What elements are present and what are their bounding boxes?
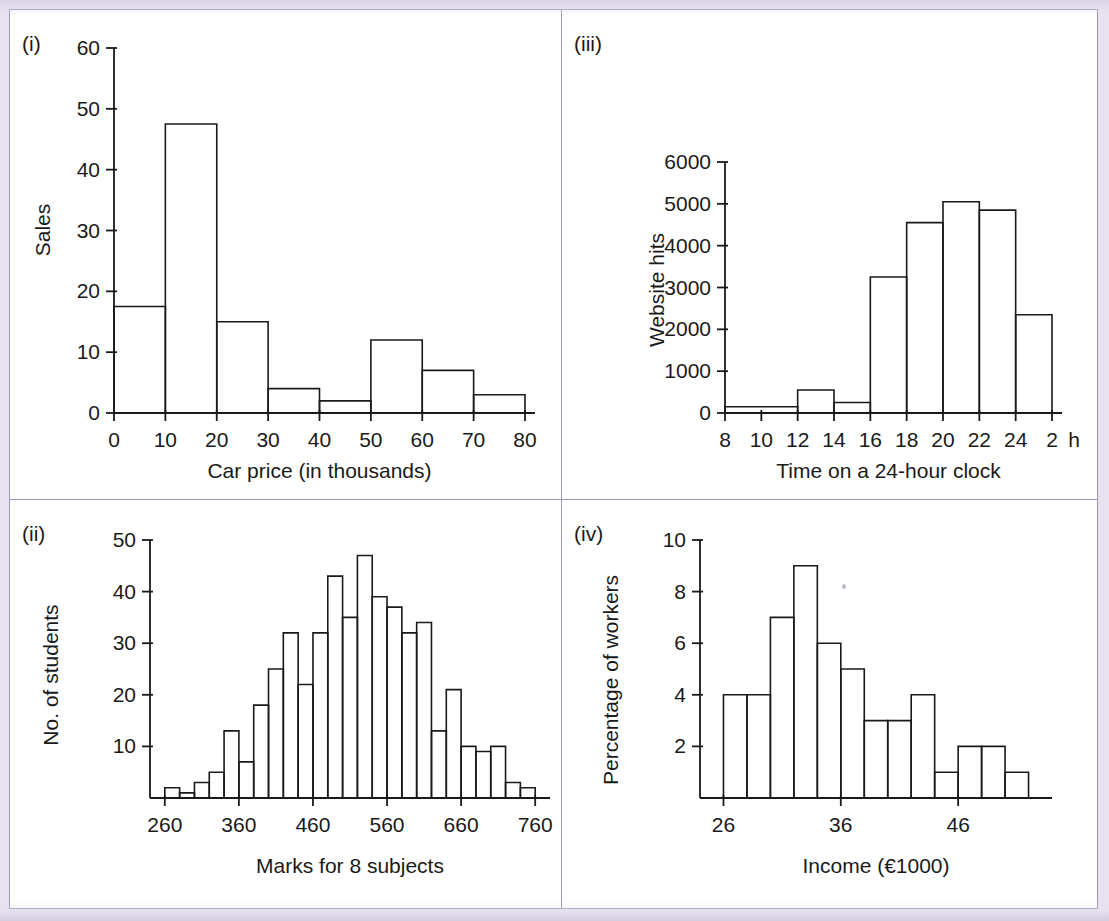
histogram-bar	[357, 555, 372, 798]
histogram-bar	[422, 370, 473, 413]
y-axis-title-ii: No. of students	[39, 604, 62, 745]
histogram-bar	[958, 746, 981, 798]
x-tick-label-iii-6: 20	[931, 428, 954, 451]
histogram-bar	[283, 633, 298, 798]
histogram-bar	[209, 772, 224, 798]
x-tick-label-iii-4: 16	[859, 428, 882, 451]
y-tick-label-i-4: 40	[77, 158, 100, 181]
y-tick-label-iii-0: 0	[699, 401, 711, 424]
histogram-bar	[372, 597, 387, 798]
figure-panel: (i) 010203040506001020304050607080Car pr…	[9, 9, 1098, 909]
histogram-bar	[431, 731, 446, 798]
page-root: (i) 010203040506001020304050607080Car pr…	[0, 0, 1109, 921]
histogram-bar	[935, 772, 958, 798]
y-tick-label-ii-4: 50	[113, 528, 136, 551]
y-tick-label-iii-3: 3000	[664, 276, 711, 299]
histogram-bar	[491, 746, 506, 798]
y-tick-label-i-5: 50	[77, 97, 100, 120]
histogram-bar	[417, 623, 432, 798]
histogram-bar	[387, 607, 402, 798]
x-tick-label-ii-1: 360	[221, 813, 256, 836]
y-tick-label-iv-1: 4	[674, 683, 686, 706]
y-tick-label-i-1: 10	[77, 340, 100, 363]
histogram-bar	[402, 633, 417, 798]
histogram-bar	[239, 762, 254, 798]
histogram-bar	[817, 643, 840, 798]
y-tick-label-iii-2: 2000	[664, 317, 711, 340]
histogram-bar	[979, 210, 1015, 413]
histogram-bar	[298, 684, 313, 798]
y-tick-label-iv-0: 2	[674, 734, 686, 757]
chart-iii: 0100020003000400050006000810121416182022…	[562, 10, 1099, 499]
x-tick-label-i-6: 60	[411, 428, 434, 451]
histogram-bar	[320, 401, 371, 413]
histogram-bar	[194, 783, 209, 798]
y-tick-label-ii-3: 40	[113, 580, 136, 603]
x-tick-label-i-4: 40	[308, 428, 331, 451]
histogram-bar	[982, 746, 1005, 798]
histogram-bar	[446, 690, 461, 798]
histogram-bar	[520, 788, 535, 798]
y-tick-label-iii-1: 1000	[664, 359, 711, 382]
x-axis-title-iii: Time on a 24-hour clock	[776, 459, 1001, 482]
x-axis-title-i: Car price (in thousands)	[207, 459, 431, 482]
histogram-bar	[165, 124, 216, 413]
x-tick-label-iii-2: 12	[786, 428, 809, 451]
x-axis-title-ii: Marks for 8 subjects	[256, 854, 444, 877]
histogram-bar	[747, 695, 770, 798]
histogram-bar	[506, 783, 521, 798]
histogram-bar	[888, 721, 911, 798]
histogram-bar	[269, 669, 284, 798]
y-tick-label-i-6: 60	[77, 36, 100, 59]
chart-i: 010203040506001020304050607080Car price …	[10, 10, 561, 499]
histogram-bar	[461, 746, 476, 798]
chart-ii: 1020304050260360460560660760Marks for 8 …	[10, 500, 561, 910]
histogram-bar	[798, 390, 834, 413]
histogram-bar	[864, 721, 887, 798]
histogram-bar	[870, 277, 906, 413]
histogram-bar	[1016, 315, 1052, 413]
histogram-bar	[834, 403, 870, 413]
x-tick-label-iii-1: 10	[750, 428, 773, 451]
x-tick-label-iii-5: 18	[895, 428, 918, 451]
chart-panel-i: (i) 010203040506001020304050607080Car pr…	[10, 10, 561, 499]
y-tick-label-iv-3: 8	[674, 580, 686, 603]
x-tick-label-i-0: 0	[108, 428, 120, 451]
histogram-bar	[943, 202, 979, 413]
y-tick-label-i-3: 30	[77, 219, 100, 242]
x-tick-label-iii-9: 2	[1046, 428, 1058, 451]
histogram-bar	[911, 695, 934, 798]
x-tick-label-ii-3: 560	[370, 813, 405, 836]
paper-speck	[842, 584, 846, 589]
histogram-bar	[254, 705, 269, 798]
histogram-bar	[371, 340, 422, 413]
histogram-bar	[476, 752, 491, 798]
chart-iv: 246810263646Income (€1000)Percentage of …	[562, 500, 1099, 910]
x-tick-label-ii-2: 460	[295, 813, 330, 836]
histogram-bar	[770, 617, 793, 798]
histogram-bar	[114, 307, 165, 413]
histogram-bar	[474, 395, 525, 413]
y-tick-label-ii-1: 20	[113, 683, 136, 706]
histogram-bar	[343, 617, 358, 798]
x-tick-label-ii-0: 260	[147, 813, 182, 836]
histogram-bar	[794, 566, 817, 798]
x-tick-label-i-5: 50	[359, 428, 382, 451]
x-axis-title-iv: Income (€1000)	[802, 854, 949, 877]
y-tick-label-i-2: 20	[77, 279, 100, 302]
y-tick-label-iv-2: 6	[674, 631, 686, 654]
y-tick-label-iii-4: 4000	[664, 234, 711, 257]
histogram-bar	[224, 731, 239, 798]
y-tick-label-i-0: 0	[88, 401, 100, 424]
histogram-bar	[907, 223, 943, 413]
x-tick-label-iii-3: 14	[822, 428, 846, 451]
y-axis-title-i: Sales	[31, 204, 54, 257]
x-tick-label-ii-5: 760	[518, 813, 553, 836]
x-tick-label-i-1: 10	[154, 428, 177, 451]
x-tick-label-i-2: 20	[205, 428, 228, 451]
y-axis-title-iv: Percentage of workers	[599, 575, 622, 785]
x-tick-label-iii-8: 24	[1004, 428, 1028, 451]
x-tick-label-iii-0: 8	[719, 428, 731, 451]
x-tick-suffix-iii: h	[1068, 428, 1080, 451]
x-tick-label-iv-1: 36	[829, 813, 852, 836]
